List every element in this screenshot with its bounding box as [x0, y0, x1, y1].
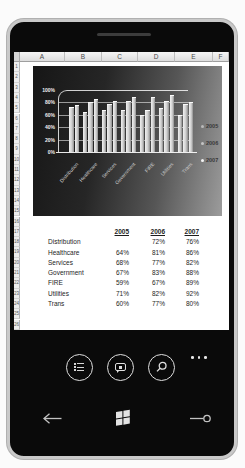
- row-number-21[interactable]: 21: [14, 268, 20, 278]
- table-cell-value[interactable]: 67%: [130, 278, 166, 288]
- table-cell-value[interactable]: 68%: [100, 258, 130, 268]
- row-number-4[interactable]: 4: [14, 93, 20, 103]
- row-number-13[interactable]: 13: [14, 186, 20, 196]
- row-number-14[interactable]: 14: [14, 196, 20, 206]
- row-number-10[interactable]: 10: [14, 155, 20, 165]
- chart-category-label: Services: [100, 161, 117, 179]
- windows-logo-icon[interactable]: [113, 406, 133, 428]
- legend-label: 2006: [206, 140, 218, 146]
- row-number-17[interactable]: 17: [14, 227, 20, 237]
- chart-category-label: FIRE: [143, 161, 155, 173]
- row-number-15[interactable]: 15: [14, 206, 20, 216]
- column-header-C[interactable]: C: [102, 52, 138, 62]
- row-number-26[interactable]: 26: [14, 320, 20, 330]
- table-cell-label[interactable]: Trans: [48, 299, 100, 309]
- table-cell-value[interactable]: [100, 237, 130, 247]
- table-cell-value[interactable]: 77%: [130, 299, 166, 309]
- row-number-2[interactable]: 2: [14, 72, 20, 82]
- row-number-22[interactable]: 22: [14, 278, 20, 288]
- legend-marker-icon: [201, 159, 204, 162]
- table-cell-value[interactable]: 71%: [100, 289, 130, 299]
- legend-label: 2005: [206, 123, 218, 129]
- bar-2005-Healthcare: [83, 112, 88, 152]
- chart-bar-group-FIRE: [138, 90, 157, 152]
- table-cell-label[interactable]: Services: [48, 258, 100, 268]
- column-header-F[interactable]: F: [213, 52, 229, 62]
- table-cell-label[interactable]: Utilities: [48, 289, 100, 299]
- table-cell-label[interactable]: FIRE: [48, 278, 100, 288]
- column-header-B[interactable]: B: [65, 52, 102, 62]
- table-cell-label[interactable]: Healthcare: [48, 248, 100, 258]
- table-cell-value[interactable]: 67%: [100, 268, 130, 278]
- table-cell-value[interactable]: 92%: [166, 289, 200, 299]
- row-number-11[interactable]: 11: [14, 165, 20, 175]
- chart-bar-group-Utilities: [157, 90, 176, 152]
- table-cell-value[interactable]: 82%: [166, 258, 200, 268]
- table-header-2005[interactable]: 2005: [100, 227, 130, 237]
- search-button[interactable]: [148, 354, 175, 381]
- legend-marker-icon: [201, 125, 204, 128]
- table-cell-label[interactable]: Government: [48, 268, 100, 278]
- search-hardware-icon[interactable]: [188, 412, 213, 425]
- row-number-18[interactable]: 18: [14, 237, 20, 247]
- table-cell-value[interactable]: 72%: [130, 237, 166, 247]
- row-number-24[interactable]: 24: [14, 299, 20, 309]
- data-table: 200520062007Distribution72%76%Healthcare…: [48, 227, 200, 309]
- row-number-7[interactable]: 7: [14, 124, 20, 134]
- row-number-6[interactable]: 6: [14, 114, 20, 124]
- embedded-chart[interactable]: 100%80%60%40%20%0%DistributionHealthcare…: [33, 66, 222, 216]
- spreadsheet-screen: ABCDEF 123456789101112131415161718192021…: [14, 52, 229, 330]
- row-number-3[interactable]: 3: [14, 83, 20, 93]
- back-arrow-icon[interactable]: [40, 412, 63, 425]
- column-header-E[interactable]: E: [175, 52, 213, 62]
- table-cell-value[interactable]: 64%: [100, 248, 130, 258]
- table-cell-value[interactable]: 80%: [166, 299, 200, 309]
- table-header-blank[interactable]: [48, 227, 100, 237]
- chart-bar-group-Trans: [176, 90, 195, 152]
- chart-bar-group-Healthcare: [81, 90, 100, 152]
- bar-2006-Services: [107, 104, 112, 152]
- table-cell-value[interactable]: 86%: [166, 248, 200, 258]
- table-cell-value[interactable]: 81%: [130, 248, 166, 258]
- table-cell-value[interactable]: 82%: [130, 289, 166, 299]
- comment-icon: [115, 363, 126, 371]
- row-number-12[interactable]: 12: [14, 175, 20, 185]
- chart-bar-group-Government: [119, 90, 138, 152]
- row-number-1[interactable]: 1: [14, 62, 20, 72]
- chart-ytick: 60%: [33, 112, 55, 118]
- bar-2006-FIRE: [145, 110, 150, 152]
- table-cell-value[interactable]: 60%: [100, 299, 130, 309]
- chart-category-label: Utilities: [159, 161, 174, 177]
- outline-notes-button[interactable]: [66, 354, 93, 381]
- row-number-19[interactable]: 19: [14, 247, 20, 257]
- table-cell-value[interactable]: 89%: [166, 278, 200, 288]
- table-cell-value[interactable]: 83%: [130, 268, 166, 278]
- column-header-D[interactable]: D: [138, 52, 175, 62]
- table-cell-value[interactable]: 77%: [130, 258, 166, 268]
- table-cell-value[interactable]: 59%: [100, 278, 130, 288]
- table-header-2007[interactable]: 2007: [166, 227, 200, 237]
- chart-ytick: 20%: [33, 137, 55, 143]
- bar-2006-Trans: [183, 104, 188, 152]
- search-icon: [154, 360, 169, 375]
- bar-2005-Government: [121, 110, 126, 152]
- comment-button[interactable]: [107, 354, 134, 381]
- column-header-A[interactable]: A: [20, 52, 65, 62]
- table-cell-label[interactable]: Distribution: [48, 237, 100, 247]
- table-cell-value[interactable]: 88%: [166, 268, 200, 278]
- row-number-8[interactable]: 8: [14, 134, 20, 144]
- row-number-25[interactable]: 25: [14, 309, 20, 319]
- chart-legend-item-2006: 2006: [201, 140, 218, 146]
- row-number-16[interactable]: 16: [14, 217, 20, 227]
- bar-2007-Healthcare: [94, 99, 99, 152]
- row-number-23[interactable]: 23: [14, 289, 20, 299]
- row-number-5[interactable]: 5: [14, 103, 20, 113]
- more-ellipsis-button[interactable]: [191, 356, 207, 359]
- table-header-2006[interactable]: 2006: [130, 227, 166, 237]
- table-cell-value[interactable]: 76%: [166, 237, 200, 247]
- chart-ytick: 40%: [33, 124, 55, 130]
- row-number-9[interactable]: 9: [14, 144, 20, 154]
- chart-ytick: 0%: [33, 149, 55, 155]
- row-number-20[interactable]: 20: [14, 258, 20, 268]
- bar-2006-Government: [126, 101, 131, 152]
